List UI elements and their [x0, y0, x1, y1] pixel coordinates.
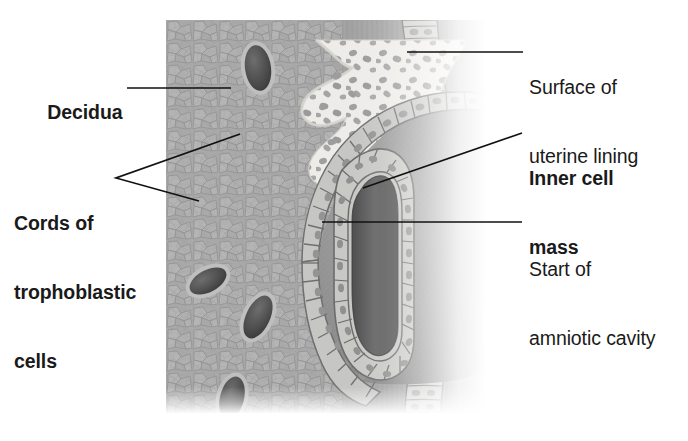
- label-inner-cell-mass-line-1: Inner cell: [529, 167, 614, 190]
- label-cords-line-1: Cords of: [14, 212, 136, 235]
- start-of-amniotic-cavity: [352, 176, 398, 356]
- label-amniotic-line-1: Start of: [529, 258, 655, 281]
- illustration-figure: Decidua Cords of trophoblastic cells Sur…: [0, 0, 688, 441]
- label-amniotic-line-2: amniotic cavity: [529, 327, 655, 350]
- label-start-of-amniotic-cavity: Start of amniotic cavity: [529, 212, 655, 396]
- label-cords-line-2: trophoblastic: [14, 281, 136, 304]
- implantation-drawing: [166, 20, 500, 413]
- label-cords-line-3: cells: [14, 350, 136, 373]
- label-cords-of-trophoblastic-cells: Cords of trophoblastic cells: [14, 166, 136, 419]
- label-decidua-text: Decidua: [47, 101, 122, 123]
- label-surface-line-1: Surface of: [529, 76, 638, 99]
- anatomy-illustration-panel: [166, 20, 500, 413]
- label-decidua: Decidua: [26, 78, 122, 147]
